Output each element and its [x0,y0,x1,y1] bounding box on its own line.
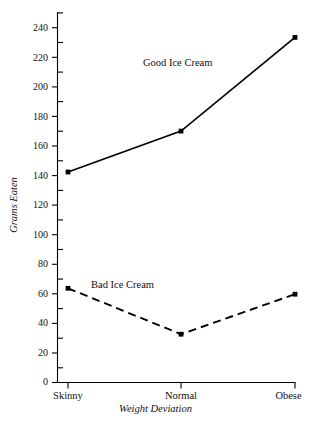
y-tick-label-160: 160 [0,141,48,151]
y-tick-label-0: 0 [0,377,48,387]
x-axis-title: Weight Deviation [0,403,311,414]
y-tick-label-20: 20 [0,348,48,358]
y-axis-title-wrap: Grams Eaten [3,165,21,245]
y-tick-label-220: 220 [0,53,48,63]
x-axis-ticks [68,383,295,389]
y-axis-minor-ticks [58,13,64,368]
y-tick-label-240: 240 [0,23,48,33]
y-tick-label-180: 180 [0,112,48,122]
series-annotation-good-ice-cream: Good Ice Cream [143,57,212,68]
series-markers-bad-ice-cream [66,286,298,337]
y-axis-major-ticks [52,28,58,383]
series-markers-good-ice-cream [66,35,298,174]
y-tick-label-80: 80 [0,259,48,269]
y-axis-title: Grams Eaten [8,177,19,233]
y-tick-label-200: 200 [0,82,48,92]
y-tick-label-40: 40 [0,318,48,328]
y-tick-label-60: 60 [0,289,48,299]
chart-figure: 0 20 40 60 80 100 120 140 160 180 200 22… [0,0,311,424]
x-tick-label-skinny: Skinny [38,390,98,401]
series-annotation-bad-ice-cream: Bad Ice Cream [91,279,154,290]
series-line-bad-ice-cream [68,288,295,334]
x-tick-label-normal: Normal [151,390,211,401]
x-tick-label-obese: Obese [266,390,311,401]
